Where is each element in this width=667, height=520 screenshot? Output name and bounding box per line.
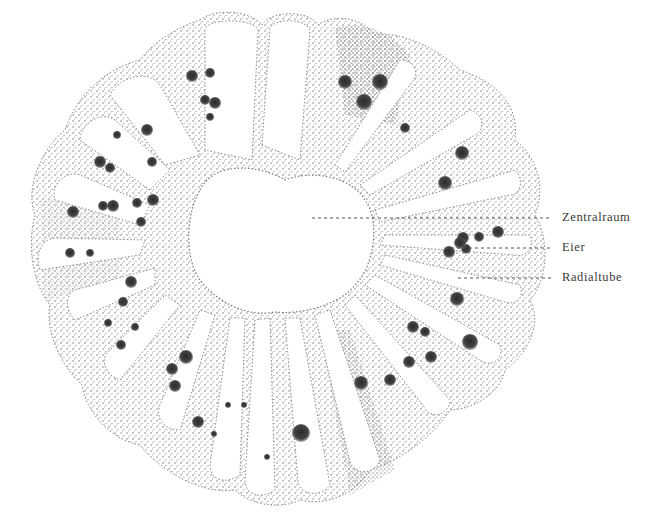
egg — [462, 334, 478, 350]
egg — [147, 194, 159, 206]
egg — [372, 74, 388, 90]
egg — [86, 249, 94, 257]
egg — [338, 75, 352, 89]
egg — [104, 319, 112, 327]
egg — [450, 292, 464, 306]
radial-cross-section-figure — [0, 0, 667, 520]
egg — [211, 431, 217, 437]
central-cavity — [189, 168, 374, 313]
label-radialtube: Radialtube — [562, 270, 622, 285]
egg — [455, 146, 469, 160]
egg — [141, 124, 153, 136]
egg — [131, 323, 139, 331]
egg — [118, 297, 128, 307]
egg — [166, 363, 178, 375]
egg — [205, 68, 215, 78]
egg — [136, 217, 146, 227]
egg — [200, 95, 210, 105]
label-eier: Eier — [562, 240, 585, 255]
egg — [169, 380, 181, 392]
egg — [113, 131, 121, 139]
egg — [420, 327, 430, 337]
egg — [400, 123, 410, 133]
egg — [105, 163, 115, 173]
egg — [356, 94, 372, 110]
egg — [225, 402, 231, 408]
egg — [438, 176, 452, 190]
label-zentralraum: Zentralraum — [562, 210, 630, 225]
egg — [98, 201, 108, 211]
egg — [454, 237, 466, 249]
egg — [209, 97, 221, 109]
egg — [147, 157, 157, 167]
egg — [492, 226, 504, 238]
egg — [107, 200, 119, 212]
egg — [241, 402, 247, 408]
egg — [125, 276, 137, 288]
egg — [116, 340, 126, 350]
egg — [264, 454, 270, 460]
egg — [192, 416, 204, 428]
egg — [65, 248, 75, 258]
egg — [179, 350, 193, 364]
egg — [292, 424, 310, 442]
egg — [206, 113, 214, 121]
egg — [384, 374, 396, 386]
egg — [94, 156, 106, 168]
egg — [425, 351, 437, 363]
egg — [403, 356, 415, 368]
egg — [186, 70, 198, 82]
egg — [407, 321, 419, 333]
egg — [354, 376, 368, 390]
egg — [474, 232, 484, 242]
egg — [132, 198, 142, 208]
egg — [67, 206, 79, 218]
